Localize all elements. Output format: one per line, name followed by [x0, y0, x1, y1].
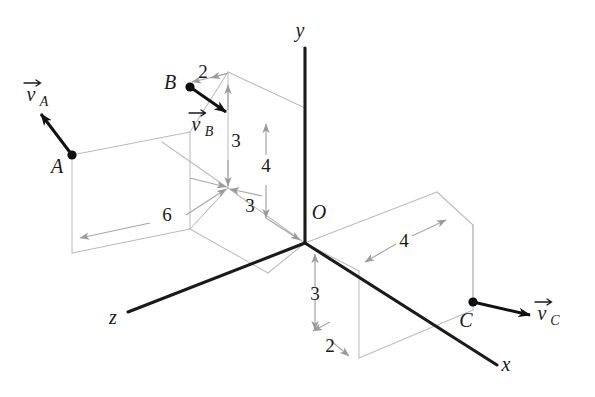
velocity-c-arrow: [473, 302, 530, 315]
box-b-edges: [162, 72, 305, 243]
dim-4-x-left: [365, 244, 396, 262]
dim-6-left: [80, 223, 150, 238]
velocity-a-symbol: v: [27, 83, 36, 105]
construction-geometry: [72, 72, 473, 358]
figure-root: y x z O A B C v A v B v C 2 3 3 4: [0, 0, 595, 397]
y-axis-label: y: [294, 19, 305, 42]
velocity-b-subscript: B: [205, 124, 214, 139]
z-axis-label: z: [108, 306, 117, 328]
origin-label: O: [312, 201, 326, 223]
velocity-b-symbol: v: [192, 113, 201, 135]
velocity-c-symbol: v: [538, 302, 547, 324]
dim-4-y-label: 4: [261, 155, 271, 176]
dim-6-label: 6: [162, 204, 172, 225]
particle-points: [67, 82, 477, 306]
velocity-vectors: [41, 87, 530, 315]
velocity-b-arrow: [190, 87, 226, 112]
mechanics-diagram: y x z O A B C v A v B v C 2 3 3 4: [0, 0, 595, 397]
dim-4-y-tail: [266, 218, 300, 240]
point-c-label: C: [459, 309, 473, 331]
z-axis-line: [128, 243, 305, 312]
velocity-a-label: v A: [24, 80, 49, 109]
velocity-a-arrow: [41, 114, 72, 155]
point-b-label: B: [164, 71, 176, 93]
point-a-label: A: [49, 155, 64, 177]
dimension-lines: [80, 73, 446, 356]
dim-4-x-right: [412, 220, 446, 236]
velocity-c-subscript: C: [550, 313, 560, 328]
dim-3-o-label: 3: [310, 283, 320, 304]
dim-2-b-label: 2: [198, 61, 208, 82]
x-axis-label: x: [501, 353, 511, 375]
dim-3-depth-label: 3: [245, 195, 255, 216]
velocity-a-subscript: A: [39, 94, 49, 109]
box-a-edges: [72, 132, 190, 253]
dim-3-b-label: 3: [231, 130, 241, 151]
velocity-c-label: v C: [535, 299, 560, 328]
dim-4-x-label: 4: [399, 230, 409, 251]
dim-2-c-label: 2: [325, 335, 335, 356]
